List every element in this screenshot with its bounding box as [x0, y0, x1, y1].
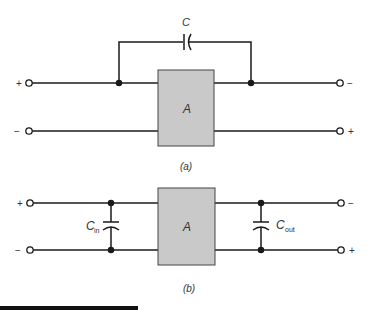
polarity-label: −: [347, 78, 353, 89]
footnote-rule: [0, 306, 138, 310]
cin-subscript: in: [94, 227, 100, 234]
polarity-label: +: [17, 198, 23, 209]
terminal-output-minus: [338, 200, 344, 206]
polarity-label: −: [15, 245, 21, 256]
caption-a: (a): [180, 161, 192, 172]
terminal-output-minus: [337, 80, 343, 86]
cout-label: C: [276, 218, 285, 232]
polarity-label: +: [348, 126, 354, 137]
panel-a: [26, 34, 343, 146]
junction-dot: [259, 201, 264, 206]
polarity-label: +: [16, 78, 22, 89]
junction-dot: [117, 81, 122, 86]
polarity-label: −: [348, 198, 354, 209]
terminal-output-plus: [338, 247, 344, 253]
junction-dot: [109, 201, 114, 206]
junction-dot: [259, 248, 264, 253]
terminal-input-plus: [26, 80, 32, 86]
terminal-input-minus: [26, 128, 32, 134]
junction-dot: [109, 248, 114, 253]
capacitor-label-c: C: [182, 16, 190, 28]
terminal-input-plus: [27, 200, 33, 206]
block-label-a: A: [182, 220, 191, 234]
block-label-a: A: [182, 102, 191, 116]
cout-subscript: out: [285, 226, 295, 233]
polarity-label: −: [14, 126, 20, 137]
terminal-output-plus: [337, 128, 343, 134]
junction-dot: [249, 81, 254, 86]
circuit-diagram: C A + − − + (a) A C in C out + −: [0, 0, 371, 310]
terminal-input-minus: [27, 247, 33, 253]
caption-b: (b): [183, 283, 195, 294]
polarity-label: +: [349, 245, 355, 256]
